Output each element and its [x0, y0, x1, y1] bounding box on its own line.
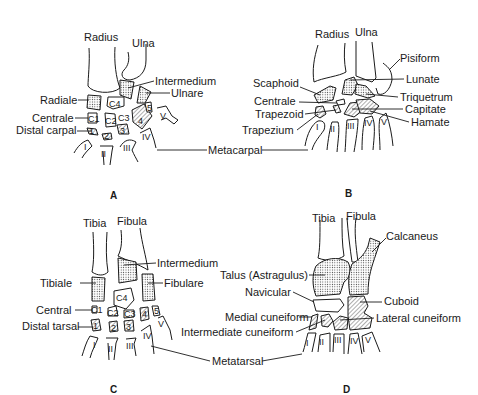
- label-distal-carpal: Distal carpal: [16, 124, 77, 136]
- label-capitate: Capitate: [405, 103, 446, 115]
- metatarsal-v-mark: V: [365, 335, 371, 345]
- label-centrale: Centrale: [254, 95, 296, 107]
- fibulare-bone: [142, 274, 155, 301]
- metatarsal-iii-mark: III: [126, 341, 134, 351]
- panel-c-title: C: [110, 384, 117, 395]
- metacarpal-ii-mark: II: [330, 124, 335, 134]
- label-tibiale: Tibiale: [40, 277, 72, 289]
- d3-mark: 3: [126, 322, 131, 332]
- panel-a-title: A: [110, 190, 117, 201]
- triquetrum-bone: [355, 84, 375, 98]
- d1-mark: 1: [93, 321, 98, 331]
- radius-bone: [88, 47, 120, 92]
- label-lunate: Lunate: [406, 73, 440, 85]
- intermedium-bone: [118, 258, 137, 283]
- radiale-bone: [87, 95, 101, 110]
- metacarpal-iii-mark: III: [347, 121, 355, 131]
- c1-mark: C1: [88, 114, 100, 124]
- scaphoid-bone: [314, 86, 336, 103]
- hamate-bone: [356, 99, 379, 114]
- metatarsal-i: [303, 333, 316, 352]
- metacarpal-i-mark: I: [316, 122, 319, 132]
- metacarpal-iv-mark: IV: [364, 118, 373, 128]
- metacarpal-v-mark: V: [381, 117, 387, 127]
- lateral-cuneiform-bone: [333, 316, 348, 330]
- label-tibia: Tibia: [312, 212, 336, 224]
- label-intermediate-cuneiform: Intermediate cuneiform: [181, 326, 294, 338]
- panel-c: I II III IV V C4 C1 C2 C3 1 2 3 4 5 Tibi…: [22, 215, 263, 395]
- label-ulnare: Ulnare: [171, 87, 203, 99]
- label-fibula: Fibula: [346, 210, 377, 222]
- metatarsal-iii-mark: III: [334, 335, 342, 345]
- panel-b: I II III IV V Radius Ulna Pisiform Scaph…: [208, 26, 453, 199]
- panel-a: I II III IV V C4 C1 C2 C3 1 2 3 4 5 Radi…: [16, 31, 216, 201]
- ulna-bone: [122, 44, 146, 80]
- metatarsal-iv-mark: IV: [350, 336, 359, 346]
- c1-mark: C1: [91, 305, 103, 315]
- d3-mark: 3: [120, 126, 125, 136]
- talus-bone: [313, 259, 350, 296]
- metatarsal-i-mark: I: [93, 340, 96, 350]
- limb-bones-diagram: I II III IV V C4 C1 C2 C3 1 2 3 4 5 Radi…: [0, 0, 478, 395]
- metacarpal-i: [305, 121, 325, 150]
- label-radius: Radius: [315, 28, 350, 40]
- label-radius: Radius: [84, 31, 119, 43]
- ulnare-bone: [137, 86, 151, 103]
- c2-mark: C2: [107, 308, 119, 318]
- c4-mark: C4: [109, 99, 121, 109]
- ulna-bone: [356, 41, 376, 82]
- centrale-bone: [336, 99, 345, 105]
- panel-d-title: D: [343, 384, 350, 395]
- d4-mark: 4: [142, 309, 147, 319]
- c2-mark: C2: [105, 116, 117, 126]
- medial-cuneiform-bone: [309, 314, 318, 330]
- label-talus: Talus (Astragulus): [220, 269, 308, 281]
- label-scaphoid: Scaphoid: [253, 77, 299, 89]
- metatarsal-i: [82, 336, 98, 358]
- label-fibula: Fibula: [117, 215, 148, 227]
- metacarpal-iii-mark: III: [123, 143, 131, 153]
- label-distal-tarsal: Distal tarsal: [22, 320, 79, 332]
- metatarsal-ii-mark: II: [108, 344, 113, 354]
- label-pisiform: Pisiform: [400, 52, 440, 64]
- metacarpal-ii-mark: II: [101, 149, 106, 159]
- d5-mark: 5: [147, 103, 152, 113]
- label-intermedium: Intermedium: [157, 257, 218, 269]
- tibia-bone: [92, 232, 108, 275]
- label-tibia: Tibia: [83, 217, 107, 229]
- pisiform-bone: [376, 63, 392, 94]
- label-triquetrum: Triquetrum: [400, 91, 453, 103]
- label-trapezium: Trapezium: [242, 124, 294, 136]
- metacarpal-iv-mark: IV: [142, 132, 151, 142]
- label-calcaneus: Calcaneus: [386, 230, 438, 242]
- label-fibulare: Fibulare: [164, 277, 204, 289]
- panel-b-title: B: [345, 188, 352, 199]
- cuboid-bone: [348, 296, 372, 330]
- d2-mark: 2: [111, 323, 116, 333]
- metatarsal-ii-mark: II: [319, 337, 324, 347]
- metacarpal-v-mark: V: [160, 111, 166, 121]
- panel-d: I II III IV V Tibia Fibula Calcaneus Tal…: [181, 210, 461, 395]
- c4-mark: C4: [116, 293, 128, 303]
- label-lateral-cuneiform: Lateral cuneiform: [376, 312, 461, 324]
- metacarpal-i: [74, 140, 92, 158]
- label-metacarpal: Metacarpal: [208, 144, 262, 156]
- label-radiale: Radiale: [40, 94, 77, 106]
- metatarsal-iv-mark: IV: [143, 331, 152, 341]
- label-navicular: Navicular: [245, 286, 291, 298]
- radius-bone: [313, 43, 346, 82]
- d5-mark: 5: [154, 306, 159, 316]
- d2-mark: 2: [104, 131, 109, 141]
- label-ulna: Ulna: [132, 37, 156, 49]
- label-centrale: Centrale: [32, 112, 74, 124]
- label-cuboid: Cuboid: [384, 295, 419, 307]
- label-trapezoid: Trapezoid: [255, 108, 304, 120]
- fibula-bone: [347, 218, 358, 262]
- metacarpal-i-mark: I: [84, 142, 87, 152]
- label-ulna: Ulna: [355, 26, 379, 38]
- metatarsal-i-mark: I: [306, 338, 309, 348]
- label-medial-cuneiform: Medial cuneiform: [225, 311, 309, 323]
- label-central: Central: [36, 304, 71, 316]
- d4-mark: 4: [138, 116, 143, 126]
- label-hamate: Hamate: [411, 116, 450, 128]
